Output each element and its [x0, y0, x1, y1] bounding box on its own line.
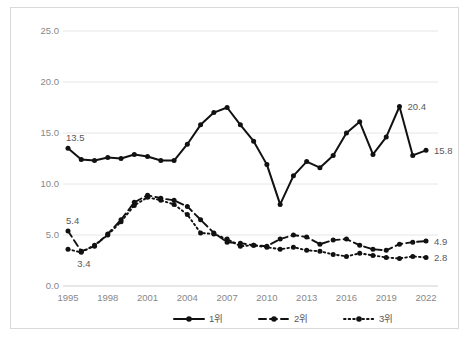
- data-point: [317, 165, 322, 170]
- data-point: [278, 202, 283, 207]
- data-point: [331, 238, 336, 243]
- data-point: [410, 254, 415, 259]
- data-point: [211, 110, 216, 115]
- data-point: [424, 148, 429, 153]
- data-point: [344, 131, 349, 136]
- data-labels: 13.520.415.85.43.44.92.8: [66, 101, 453, 269]
- data-point: [357, 119, 362, 124]
- data-point: [317, 249, 322, 254]
- data-point: [66, 146, 71, 151]
- data-point: [410, 240, 415, 245]
- legend: 1위2위3위: [174, 313, 393, 324]
- data-point: [251, 243, 256, 248]
- data-point: [410, 153, 415, 158]
- data-point: [291, 173, 296, 178]
- chart-container: 0.05.010.015.020.025.0 19951998200120042…: [10, 7, 459, 329]
- data-point: [304, 235, 309, 240]
- data-point: [251, 139, 256, 144]
- data-point: [238, 122, 243, 127]
- data-point: [79, 250, 84, 255]
- y-axis-tick-labels: 0.05.010.015.020.025.0: [41, 25, 60, 291]
- data-point: [291, 245, 296, 250]
- data-point: [370, 152, 375, 157]
- legend-label-2위[interactable]: 2위: [294, 313, 308, 324]
- data-point: [304, 248, 309, 253]
- data-point: [105, 233, 110, 238]
- data-point: [424, 255, 429, 260]
- data-point: [304, 159, 309, 164]
- data-label: 20.4: [407, 101, 426, 112]
- series-layer: [66, 104, 429, 261]
- data-point: [344, 237, 349, 242]
- y-tick-label: 0.0: [46, 280, 59, 291]
- data-point: [79, 157, 84, 162]
- data-point: [92, 158, 97, 163]
- legend-label-1위[interactable]: 1위: [209, 313, 223, 324]
- x-tick-label: 2022: [415, 292, 436, 303]
- data-point: [278, 237, 283, 242]
- data-point: [158, 198, 163, 203]
- data-point: [172, 202, 177, 207]
- y-tick-label: 20.0: [41, 76, 60, 87]
- data-point: [317, 242, 322, 247]
- data-point: [331, 153, 336, 158]
- x-tick-label: 2016: [336, 292, 357, 303]
- data-point: [119, 219, 124, 224]
- x-tick-label: 2001: [137, 292, 158, 303]
- data-point: [264, 245, 269, 250]
- data-point: [132, 152, 137, 157]
- x-tick-label: 1998: [97, 292, 118, 303]
- data-point: [424, 239, 429, 244]
- data-point: [92, 243, 97, 248]
- data-point: [119, 156, 124, 161]
- y-tick-label: 10.0: [41, 178, 60, 189]
- legend-marker-2위: [271, 316, 277, 322]
- x-tick-label: 2004: [177, 292, 198, 303]
- y-tick-label: 15.0: [41, 127, 60, 138]
- data-point: [344, 254, 349, 259]
- data-point: [172, 158, 177, 163]
- data-point: [331, 252, 336, 257]
- x-tick-label: 2013: [296, 292, 317, 303]
- x-tick-label: 2007: [217, 292, 238, 303]
- data-point: [66, 228, 71, 233]
- data-point: [384, 135, 389, 140]
- data-point: [238, 244, 243, 249]
- data-point: [66, 247, 71, 252]
- x-axis-tick-labels: 1995199820012004200720102013201620192022: [57, 292, 436, 303]
- data-point: [211, 231, 216, 236]
- data-point: [397, 104, 402, 109]
- data-label: 15.8: [434, 145, 453, 156]
- legend-label-3위[interactable]: 3위: [379, 313, 393, 324]
- x-tick-label: 1995: [57, 292, 78, 303]
- data-point: [225, 237, 230, 242]
- data-point: [397, 256, 402, 261]
- data-point: [198, 230, 203, 235]
- data-point: [278, 247, 283, 252]
- data-point: [397, 242, 402, 247]
- legend-marker-3위: [356, 316, 362, 322]
- data-label: 13.5: [66, 132, 85, 143]
- data-point: [264, 162, 269, 167]
- data-point: [132, 203, 137, 208]
- data-point: [198, 217, 203, 222]
- data-point: [291, 233, 296, 238]
- y-tick-label: 5.0: [46, 229, 59, 240]
- data-point: [357, 243, 362, 248]
- data-label: 5.4: [66, 215, 79, 226]
- data-point: [145, 195, 150, 200]
- data-point: [185, 204, 190, 209]
- data-point: [145, 154, 150, 159]
- series-1: [66, 104, 429, 207]
- data-label: 4.9: [434, 236, 447, 247]
- data-point: [357, 251, 362, 256]
- data-point: [185, 212, 190, 217]
- y-tick-label: 25.0: [41, 25, 60, 36]
- data-point: [370, 247, 375, 252]
- data-point: [158, 158, 163, 163]
- data-point: [225, 105, 230, 110]
- data-point: [198, 122, 203, 127]
- data-point: [185, 142, 190, 147]
- data-point: [370, 253, 375, 258]
- data-label: 2.8: [434, 252, 447, 263]
